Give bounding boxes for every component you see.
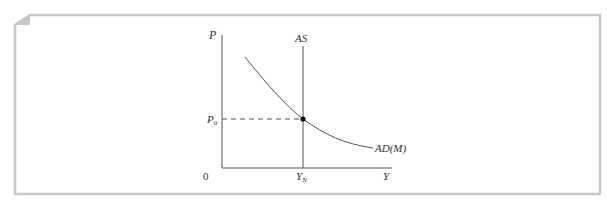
origin-label: 0 [203,170,209,182]
output-axis-label: Y [383,170,391,182]
ad-label: AD(M) [374,142,406,155]
equilibrium-price-label: P0 [206,113,218,127]
ad-curve [245,57,373,148]
price-axis-label: P [208,28,217,42]
diagram-figure: P AS AD(M) 0 Y P0 YN [0,0,607,203]
natural-output-label: YN [296,170,307,184]
as-label: AS [294,32,308,44]
figure-frame [15,15,600,194]
equilibrium-point [300,116,305,121]
